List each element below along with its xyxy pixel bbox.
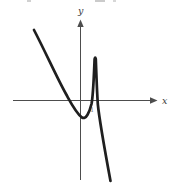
function-graph-canvas: x y 1	[0, 0, 174, 185]
function-curve	[34, 30, 111, 181]
y-axis: y	[77, 5, 84, 180]
function-sketch-figure: x y 1	[0, 0, 174, 185]
crop-artifact-left	[27, 0, 31, 2]
x-axis-label: x	[162, 95, 168, 106]
crop-artifact-right	[113, 0, 116, 2]
cropped-text-artifacts	[27, 0, 116, 2]
x-axis-arrowhead-icon	[150, 97, 158, 103]
crop-artifact-middle	[95, 0, 105, 2]
y-axis-label: y	[77, 5, 84, 16]
y-axis-arrowhead-icon	[77, 20, 83, 28]
